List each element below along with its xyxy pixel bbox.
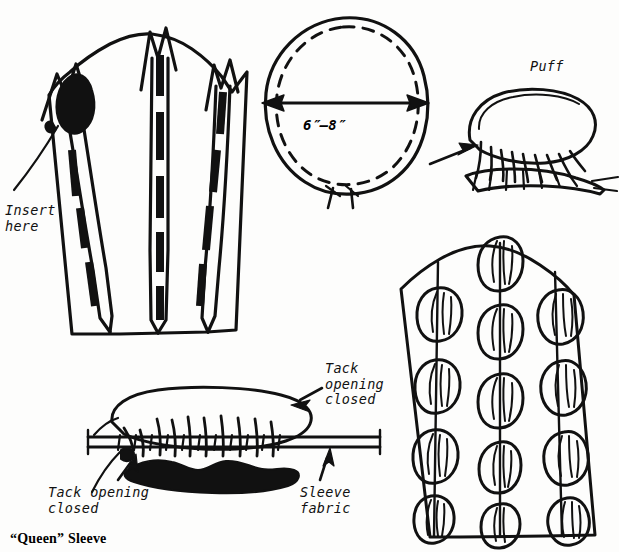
circle-outline	[265, 18, 427, 194]
insert-leader-line	[14, 126, 58, 190]
circle-pattern	[262, 18, 429, 208]
sleeve-fabric-pointer	[320, 448, 334, 480]
label-tack-opening-closed-top: Tack opening closed	[325, 361, 384, 408]
dimension-arrow	[262, 95, 429, 111]
assembly-shadow	[125, 460, 299, 493]
puff-thread-right-1	[592, 177, 618, 181]
puff-dome	[469, 89, 595, 163]
puff-oval	[417, 288, 462, 342]
label-tack-opening-closed-bottom: Tack opening closed	[48, 485, 149, 516]
stitch-line-dashed	[276, 27, 418, 185]
sleeve-finished-right	[401, 237, 595, 548]
label-sleeve-fabric: Sleeve fabric	[300, 485, 351, 516]
label-puff: Puff	[530, 59, 564, 75]
figure-caption: “Queen” Sleeve	[10, 531, 107, 547]
puff-thread-right-2	[594, 188, 617, 191]
puff-column-3	[538, 289, 590, 545]
puff-finished	[430, 89, 618, 194]
puff-oval	[548, 498, 590, 546]
tack-knot-left	[121, 448, 134, 461]
puff-oval	[541, 360, 587, 415]
illustration-page: Insert here Puff Tack opening closed Tac…	[0, 0, 619, 552]
puff-ruffle-base	[466, 169, 604, 194]
dimension-label: 6″–8″	[303, 117, 345, 133]
illustration-artwork	[0, 0, 619, 552]
insert-blob	[56, 74, 94, 133]
label-insert-here: Insert here	[5, 203, 56, 234]
puff-oval	[544, 431, 589, 485]
puff-dome-inner	[479, 95, 579, 129]
slit-openings	[72, 55, 223, 320]
sleeve-pattern-left	[14, 28, 247, 334]
puff-pointer-arrow	[430, 143, 478, 164]
